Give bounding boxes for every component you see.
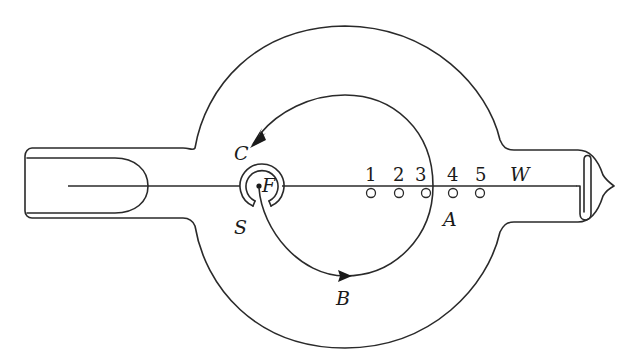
probe-label-1: 1 [365, 164, 376, 185]
probe-3 [422, 189, 431, 198]
apparatus-diagram: 1 2 3 4 5 C F S A B W [0, 0, 624, 363]
probe-label-3: 3 [415, 164, 426, 185]
label-W: W [510, 163, 531, 185]
arrowhead-top-icon [250, 131, 266, 148]
source-slit-edge-left [253, 201, 255, 206]
probe-4 [449, 189, 458, 198]
probe-label-2: 2 [393, 164, 404, 185]
arrowhead-bottom-icon [338, 270, 352, 282]
source-slit-edge-right [269, 201, 271, 206]
label-C: C [234, 142, 249, 164]
right-loop-electrode [577, 156, 591, 221]
label-B: B [335, 287, 350, 309]
probe-label-5: 5 [475, 164, 486, 185]
probe-label-4: 4 [447, 164, 458, 185]
label-F: F [261, 174, 276, 196]
probe-5 [476, 189, 485, 198]
probe-holes [367, 189, 485, 198]
label-A: A [441, 208, 457, 230]
label-S: S [234, 216, 247, 238]
glass-envelope [25, 26, 614, 348]
probe-1 [367, 189, 376, 198]
probe-2 [395, 189, 404, 198]
